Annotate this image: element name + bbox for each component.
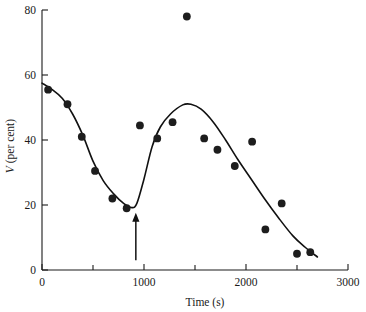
x-tick-label: 3000 <box>337 276 360 288</box>
scatter-plot: 020406080 0100020003000 Time (s) V (per … <box>0 0 366 312</box>
y-tick-label: 40 <box>25 134 37 146</box>
data-point <box>293 250 301 258</box>
data-point <box>248 138 256 146</box>
data-point <box>136 121 144 129</box>
x-axis-label: Time (s) <box>186 296 225 309</box>
y-axis-ticks <box>42 10 48 270</box>
x-tick-label: 1000 <box>133 276 156 288</box>
data-point <box>169 118 177 126</box>
fitted-curve-path <box>42 83 317 257</box>
data-point <box>306 248 314 256</box>
y-tick-label: 0 <box>30 264 36 276</box>
data-point <box>44 86 52 94</box>
x-tick-label: 0 <box>39 276 45 288</box>
axes <box>42 10 348 270</box>
y-tick-label: 20 <box>25 199 37 211</box>
data-point <box>231 162 239 170</box>
x-axis-ticks <box>42 264 348 270</box>
x-axis-tick-labels: 0100020003000 <box>39 276 360 288</box>
chart-figure: 020406080 0100020003000 Time (s) V (per … <box>0 0 366 312</box>
data-point <box>278 199 286 207</box>
y-tick-label: 60 <box>25 69 37 81</box>
data-point <box>91 167 99 175</box>
data-point <box>64 100 72 108</box>
y-tick-label: 80 <box>25 4 37 16</box>
data-point <box>123 204 131 212</box>
data-point <box>261 225 269 233</box>
data-point <box>108 195 116 203</box>
data-point <box>183 13 191 21</box>
data-point <box>78 133 86 141</box>
data-point <box>200 134 208 142</box>
arrow-head-icon <box>132 213 139 222</box>
fitted-curve <box>42 83 317 257</box>
y-axis-label: V (per cent) <box>4 119 17 173</box>
y-axis-label-units: (per cent) <box>4 119 17 166</box>
arrow-annotation <box>132 213 139 261</box>
data-points <box>44 13 314 258</box>
data-point <box>153 134 161 142</box>
x-tick-label: 2000 <box>235 276 258 288</box>
data-point <box>214 146 222 154</box>
y-axis-tick-labels: 020406080 <box>25 4 37 276</box>
